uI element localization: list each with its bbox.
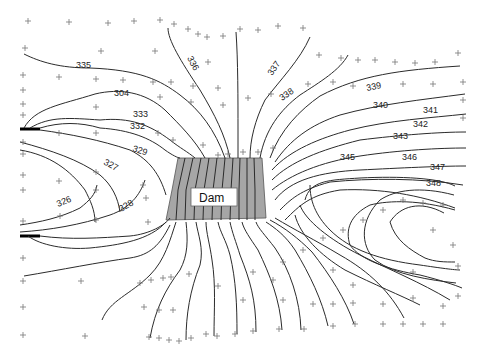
label-335: 335 [76,60,91,70]
label-347: 347 [430,162,445,172]
label-334: 304 [114,88,129,98]
label-329: 329 [131,143,148,157]
dam-label: Dam [199,191,224,205]
upper-contours [168,28,348,158]
label-348: 348 [426,178,441,188]
bottom-contours [102,218,404,340]
label-345: 345 [340,152,355,162]
label-346: 346 [402,152,417,162]
label-340: 340 [373,100,388,110]
contour-map-svg: 335 304 333 332 329 327 326 328 336 337 … [0,0,482,356]
label-327: 327 [102,157,120,173]
label-332: 332 [130,121,145,131]
contour-diagram: 335 304 333 332 329 327 326 328 336 337 … [0,0,482,356]
label-336: 336 [185,54,201,72]
label-326: 326 [55,194,73,209]
label-328: 328 [117,198,135,214]
label-341: 341 [423,105,438,115]
label-343: 343 [393,131,408,141]
label-338: 338 [277,86,295,103]
label-339: 339 [365,80,382,93]
label-337: 337 [265,59,282,77]
label-342: 342 [413,119,428,129]
label-333: 333 [133,109,148,119]
